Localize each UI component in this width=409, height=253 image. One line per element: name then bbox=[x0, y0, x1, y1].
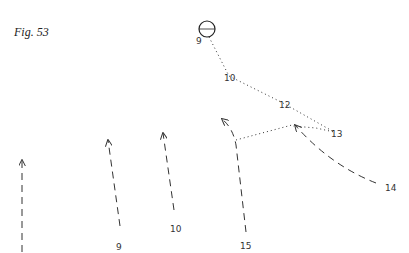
pass-label-12: 12 bbox=[279, 100, 290, 110]
pass-path bbox=[209, 37, 334, 132]
ball-label: 9 bbox=[196, 36, 202, 46]
play-diagram: 9 10 12 13 9 10 15 14 bbox=[0, 0, 409, 253]
extra-pass-path bbox=[236, 125, 292, 140]
runner-10-label: 10 bbox=[170, 224, 182, 234]
runner-10-path bbox=[163, 133, 174, 210]
runner-9-label: 9 bbox=[116, 242, 122, 252]
runner-9-path bbox=[108, 140, 120, 226]
ball-icon bbox=[199, 21, 215, 37]
pass-label-10: 10 bbox=[224, 73, 236, 83]
runner-15-label: 15 bbox=[240, 241, 251, 251]
runner-14-label: 14 bbox=[385, 183, 397, 193]
runner-15-path bbox=[222, 119, 246, 232]
pass-label-13: 13 bbox=[331, 129, 342, 139]
